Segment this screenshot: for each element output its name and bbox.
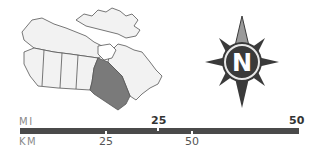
- arctic-islands: [76, 8, 140, 38]
- compass-rose-icon: N: [205, 16, 279, 108]
- compass-north-label: N: [232, 49, 252, 77]
- miles-unit-label: MI: [19, 116, 34, 127]
- km-unit-label: KM: [19, 136, 37, 147]
- canada-map: [14, 2, 164, 114]
- scale-bar: [20, 128, 299, 134]
- km-tick-25: 25: [99, 135, 113, 148]
- miles-tick-mark-25: [157, 126, 159, 131]
- miles-tick-50: 50: [289, 114, 304, 127]
- km-tick-50: 50: [185, 135, 199, 148]
